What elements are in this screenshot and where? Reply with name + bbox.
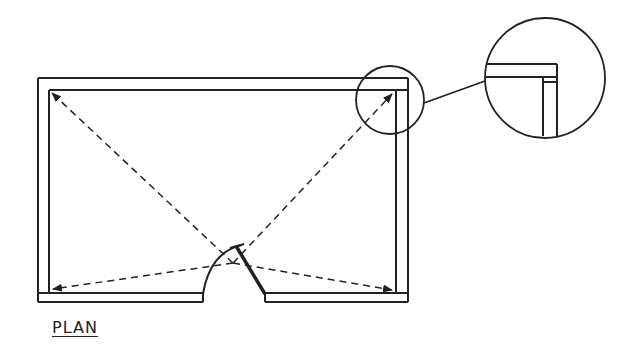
sight-line-bottom-right bbox=[233, 263, 392, 290]
door bbox=[203, 244, 265, 294]
callout-leader bbox=[424, 81, 485, 103]
plan-title: PLAN bbox=[52, 318, 98, 337]
sight-line-bottom-left bbox=[53, 263, 233, 289]
sight-lines bbox=[52, 93, 392, 290]
detail-enlargement bbox=[486, 64, 557, 136]
door-leaf bbox=[236, 246, 265, 294]
sight-line-top-left bbox=[52, 93, 233, 263]
sight-line-top-right bbox=[233, 94, 392, 263]
callout-circle bbox=[356, 66, 424, 134]
room-walls bbox=[38, 78, 408, 302]
floor-plan-drawing bbox=[0, 0, 630, 346]
